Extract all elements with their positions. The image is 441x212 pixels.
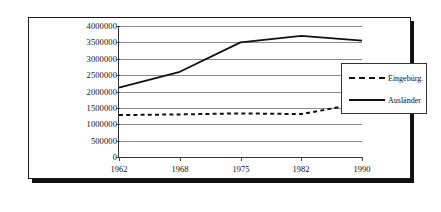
chart-legend: Eingebürg. Ausländer [341, 63, 427, 114]
y-axis-tick-label: 1000000 [87, 119, 117, 129]
y-axis-tick-label: 2000000 [87, 87, 117, 97]
legend-item-eingebuerg: Eingebürg. [342, 70, 428, 86]
y-axis-labels: 0500000100000015000002000000250000030000… [43, 18, 117, 180]
chart-screenshot: 0500000100000015000002000000250000030000… [0, 0, 441, 212]
y-axis-tick-label: 2500000 [87, 70, 117, 80]
chart-frame: 0500000100000015000002000000250000030000… [28, 17, 411, 179]
legend-label-auslaender: Ausländer [388, 96, 421, 105]
series-line-eingebuerg [119, 103, 362, 115]
legend-swatch-dashed-icon [349, 77, 385, 79]
y-axis-tick-label: 3500000 [87, 37, 117, 47]
series-line-auslaender [119, 36, 362, 88]
y-axis-tick-label: 4000000 [87, 21, 117, 31]
y-axis-tick-label: 500000 [91, 136, 117, 146]
y-axis-tick-label: 3000000 [87, 54, 117, 64]
legend-swatch-solid-icon [349, 99, 385, 101]
data-series [119, 18, 362, 180]
legend-item-auslaender: Ausländer [342, 92, 428, 108]
legend-label-eingebuerg: Eingebürg. [388, 74, 423, 83]
x-axis-tick [362, 157, 363, 161]
y-axis-tick-label: 1500000 [87, 103, 117, 113]
plot-area: 0500000100000015000002000000250000030000… [29, 18, 412, 180]
